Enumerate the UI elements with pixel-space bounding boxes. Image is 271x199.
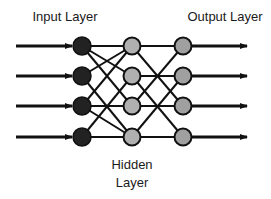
hidden-output-connections	[132, 46, 183, 137]
output-node	[175, 98, 192, 115]
hidden-node	[124, 98, 141, 115]
hidden-layer-label: Hidden Layer	[97, 156, 167, 192]
hidden-node	[124, 68, 141, 85]
output-node	[175, 38, 192, 55]
input-node	[73, 128, 91, 146]
input-node	[73, 97, 91, 115]
input-hidden-connections	[82, 46, 132, 137]
hidden-layer-label-line1: Hidden	[97, 156, 167, 174]
hidden-layer-label-line2: Layer	[97, 174, 167, 192]
input-arrows	[16, 46, 72, 137]
input-layer-nodes	[73, 37, 91, 146]
output-layer-label: Output Layer	[170, 8, 271, 26]
output-node	[175, 129, 192, 146]
output-arrows	[190, 46, 247, 137]
output-node	[175, 68, 192, 85]
hidden-node	[124, 38, 141, 55]
input-layer-label: Input Layer	[10, 8, 120, 26]
input-node	[73, 67, 91, 85]
hidden-node	[124, 129, 141, 146]
input-node	[73, 37, 91, 55]
